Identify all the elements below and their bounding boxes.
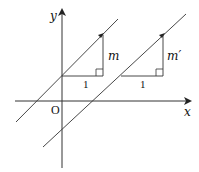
- diagram-canvas: y x O 1 m 1 m′: [0, 0, 199, 172]
- right-angle-mark-2: [156, 69, 163, 76]
- run-label-1: 1: [83, 78, 89, 90]
- y-axis-label: y: [49, 9, 57, 23]
- line-2: [43, 14, 186, 147]
- x-axis-label: x: [184, 105, 191, 119]
- slope-label-m-prime: m′: [167, 49, 181, 63]
- line-2-direction-arrow-icon: [159, 33, 165, 38]
- right-angle-mark-1: [96, 69, 103, 76]
- origin-label: O: [51, 103, 60, 117]
- run-label-2: 1: [140, 78, 146, 90]
- slope-label-m: m: [108, 49, 119, 63]
